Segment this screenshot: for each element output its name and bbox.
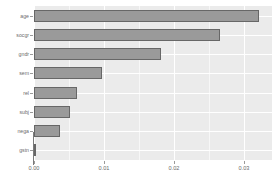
y-tick-mark (30, 73, 33, 74)
x-tick-mark (104, 161, 105, 164)
y-tick-mark (30, 93, 33, 94)
gridline-major-y (34, 150, 272, 151)
gridline-major-y (34, 131, 272, 132)
bar-nega (34, 125, 60, 137)
bar-rel (34, 87, 77, 99)
y-tick-mark (30, 16, 33, 17)
bar-sem (34, 67, 102, 79)
bar-gstn (34, 144, 36, 156)
x-tick-label-0.00: 0.00 (29, 165, 40, 172)
y-tick-mark (30, 131, 33, 132)
bar-chart: agesocgrgndrsemrelsubjnegagstn 0.000.010… (0, 0, 280, 183)
bar-gndr (34, 48, 161, 60)
gridline-major-x (244, 6, 245, 160)
y-tick-mark (30, 54, 33, 55)
x-tick-label-0.01: 0.01 (99, 165, 110, 172)
x-tick-mark (244, 161, 245, 164)
x-tick-label-0.03: 0.03 (239, 165, 250, 172)
bar-socgr (34, 29, 220, 41)
x-tick-label-0.02: 0.02 (169, 165, 180, 172)
x-tick-mark (174, 161, 175, 164)
y-tick-label-gndr: gndr (3, 51, 29, 57)
bar-subj (34, 106, 70, 118)
y-tick-mark (30, 35, 33, 36)
bar-age (34, 10, 259, 22)
y-tick-label-gstn: gstn (3, 147, 29, 153)
plot-panel (34, 6, 272, 160)
y-tick-label-socgr: socgr (3, 32, 29, 38)
y-tick-label-rel: rel (3, 90, 29, 96)
y-tick-mark (30, 150, 33, 151)
y-tick-label-age: age (3, 13, 29, 19)
x-tick-mark (34, 161, 35, 164)
y-tick-label-nega: nega (3, 128, 29, 134)
y-tick-mark (30, 112, 33, 113)
y-tick-label-subj: subj (3, 109, 29, 115)
y-tick-label-sem: sem (3, 70, 29, 76)
